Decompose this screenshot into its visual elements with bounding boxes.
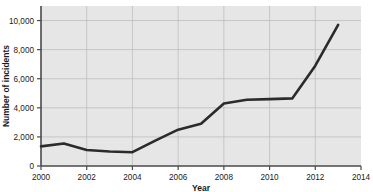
y-tick-label: 2,000	[14, 133, 35, 142]
y-tick-label: 6,000	[14, 75, 35, 84]
x-axis-title: Year	[192, 183, 211, 192]
y-axis-title: Number of incidents	[1, 45, 11, 127]
y-tick-label: 4,000	[14, 104, 35, 113]
y-tick-label: 8,000	[14, 46, 35, 55]
x-tick-label: 2012	[306, 173, 325, 182]
chart-container: 02,0004,0006,0008,00010,000 200020022004…	[0, 0, 373, 192]
y-axis-tick-labels: 02,0004,0006,0008,00010,000	[9, 17, 34, 171]
x-tick-label: 2000	[32, 173, 51, 182]
line-chart: 02,0004,0006,0008,00010,000 200020022004…	[0, 0, 373, 192]
x-tick-label: 2002	[78, 173, 97, 182]
x-tick-label: 2006	[169, 173, 188, 182]
x-axis-tick-labels: 20002002200420062008201020122014	[32, 173, 371, 182]
plot-area-background	[41, 6, 361, 166]
y-tick-label: 10,000	[9, 17, 34, 26]
x-tick-label: 2010	[260, 173, 279, 182]
y-tick-label: 0	[29, 162, 34, 171]
x-tick-label: 2008	[215, 173, 234, 182]
x-tick-label: 2014	[352, 173, 371, 182]
x-tick-label: 2004	[123, 173, 142, 182]
